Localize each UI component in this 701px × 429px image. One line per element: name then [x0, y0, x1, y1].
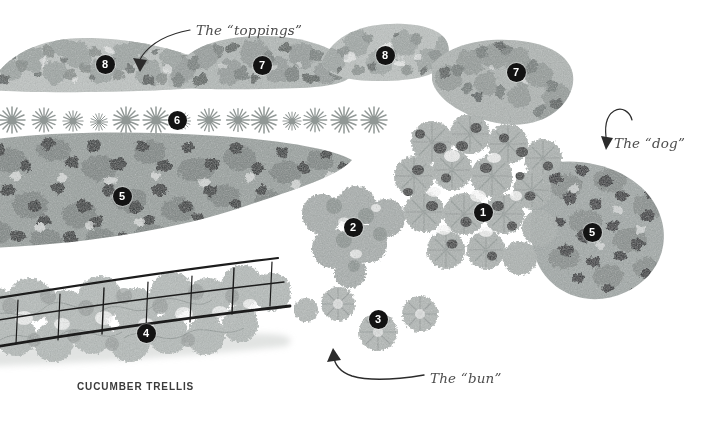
marker-8-toppings-right[interactable]: 8 [376, 46, 395, 65]
marker-5-dog-bed-left[interactable]: 5 [113, 187, 132, 206]
annotation-dog: The “dog” [614, 135, 685, 151]
marker-8-toppings-left[interactable]: 8 [96, 55, 115, 74]
caption-cucumber-trellis: CUCUMBER TRELLIS [77, 381, 194, 392]
marker-7-toppings-far-right[interactable]: 7 [507, 63, 526, 82]
marker-6-star-flower-row[interactable]: 6 [168, 111, 187, 130]
marker-7-toppings-center[interactable]: 7 [253, 56, 272, 75]
marker-4-cucumber-trellis[interactable]: 4 [137, 324, 156, 343]
marker-2-bun-cluster-left[interactable]: 2 [344, 218, 363, 237]
garden-plan-illustration: The “toppings” The “dog” The “bun” CUCUM… [0, 0, 701, 429]
annotation-bun: The “bun” [430, 370, 502, 386]
marker-3-bun-cluster-bottom[interactable]: 3 [369, 310, 388, 329]
marker-1-bun-cluster-center[interactable]: 1 [474, 203, 493, 222]
annotation-toppings: The “toppings” [196, 22, 302, 38]
marker-5-dog-bed-right[interactable]: 5 [583, 223, 602, 242]
